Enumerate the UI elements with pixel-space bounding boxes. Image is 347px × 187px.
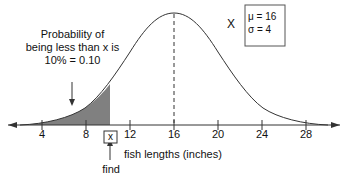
find-label: find — [96, 163, 126, 176]
tick-label: 20 — [210, 128, 226, 141]
shaded-area — [20, 84, 110, 125]
variable-label: X — [225, 18, 237, 31]
right-arrow-icon — [331, 122, 340, 128]
x-box-label: x — [104, 130, 117, 143]
tick-label: 28 — [298, 128, 314, 141]
annotation-text: Probability of being less than x is 10% … — [20, 28, 125, 67]
tick-label: 16 — [166, 128, 182, 141]
params-text: μ = 16 σ = 4 — [248, 10, 284, 36]
x-axis-label: fish lengths (inches) — [124, 148, 224, 161]
tick-label: 8 — [78, 128, 94, 141]
tick-label: 12 — [122, 128, 138, 141]
left-arrow-icon — [8, 122, 17, 128]
tick-label: 24 — [254, 128, 270, 141]
down-arrow-icon — [69, 99, 75, 106]
tick-label: 4 — [34, 128, 50, 141]
